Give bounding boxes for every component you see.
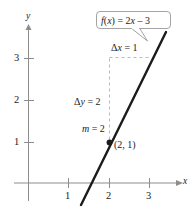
x-tick-label-1: 1 (65, 191, 70, 202)
x-tick-label-2: 2 (106, 191, 111, 202)
delta-x-value: = 1 (122, 42, 138, 53)
function-label: f(x) = 2x – 3 (101, 16, 150, 26)
x-tick-label-3: 3 (146, 191, 151, 202)
function-label-rest: – 3 (135, 15, 150, 26)
graph-figure: f(x) = 2x – 3 Δx = 1 Δy = 2 m = 2 (2, 1)… (0, 0, 193, 212)
point-label: (2, 1) (114, 140, 136, 150)
y-tick-label-2: 2 (14, 95, 19, 106)
y-axis (26, 24, 32, 201)
delta-x-label: Δx = 1 (111, 43, 138, 53)
y-tick-label-1: 1 (14, 137, 19, 148)
rise-run-guides (110, 58, 151, 143)
point-marker (107, 140, 113, 146)
y-axis-label: y (26, 12, 30, 22)
delta-y-label: Δy = 2 (74, 97, 101, 107)
function-label-eq: = 2 (115, 15, 131, 26)
x-axis-label: x (183, 177, 187, 187)
slope-value: = 2 (89, 123, 105, 134)
slope-label: m = 2 (82, 124, 105, 134)
x-axis (14, 180, 183, 186)
y-tick-label-3: 3 (14, 53, 19, 64)
delta-y-value: = 2 (85, 96, 101, 107)
